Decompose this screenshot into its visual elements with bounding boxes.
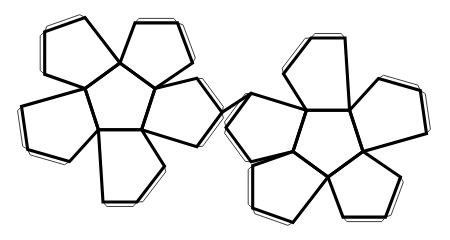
dodecahedron-net-figure xyxy=(0,0,450,240)
net-canvas xyxy=(0,0,450,240)
